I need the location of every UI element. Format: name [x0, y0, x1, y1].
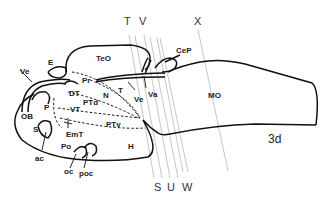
label-n: N: [103, 92, 109, 100]
pointer-ve-mid: [128, 82, 135, 90]
label-p: P: [44, 104, 49, 112]
pointer-oc: [70, 154, 76, 168]
label-t: T: [118, 87, 123, 95]
section-label-V: V: [139, 16, 146, 27]
label-s: S: [33, 126, 38, 134]
section-label-S: S: [154, 182, 161, 193]
boundary-p: [54, 98, 62, 128]
stage-label: 3d: [268, 133, 281, 145]
label-dt: DT: [69, 90, 80, 98]
section-label-U: U: [167, 182, 175, 193]
label-ptv: PTv: [106, 121, 121, 129]
label-ob: OB: [21, 113, 33, 121]
label-ac: ac: [35, 155, 44, 163]
label-ptd: PTd: [83, 99, 98, 107]
label-va: Va: [148, 91, 157, 99]
boundary-ptv: [60, 118, 145, 128]
label-e: E: [48, 59, 53, 67]
label-teo: TeO: [96, 55, 111, 63]
label-ve-top: Ve: [20, 68, 29, 76]
section-line-X: [198, 30, 228, 171]
label-emt: EmT: [66, 131, 83, 139]
dashed-boundaries: [54, 72, 145, 128]
label-po: Po: [61, 143, 71, 151]
section-label-T: T: [124, 16, 131, 27]
section-label-W: W: [182, 182, 192, 193]
brain-diagram: [0, 0, 336, 205]
label-cep: CeP: [176, 47, 192, 55]
label-oc: oc: [64, 168, 73, 176]
hindbrain-bottom: [158, 124, 316, 135]
hindbrain-top: [168, 60, 317, 125]
epiphysis-loop: [48, 67, 66, 78]
label-pr: Pr: [82, 77, 90, 85]
label-mo: MO: [208, 92, 221, 100]
label-h: H: [128, 143, 134, 151]
section-label-X: X: [194, 16, 201, 27]
pr-loop: [64, 81, 78, 84]
label-vt: VT: [70, 106, 80, 114]
label-ve-mid: Ve: [134, 96, 143, 104]
label-poc: poc: [79, 170, 93, 178]
